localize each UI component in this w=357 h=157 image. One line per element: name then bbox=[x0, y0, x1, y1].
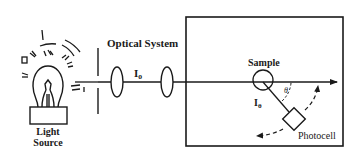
photocell-icon bbox=[283, 108, 306, 131]
sample-circle bbox=[253, 70, 273, 90]
rotation-arrow-up bbox=[305, 86, 318, 110]
incident-intensity-subscript: o bbox=[138, 72, 142, 81]
angle-label: θ bbox=[284, 87, 288, 95]
scattered-intensity-label: Iθ bbox=[254, 98, 262, 110]
light-rays-icon bbox=[22, 30, 84, 92]
optical-system-label: Optical System bbox=[107, 38, 178, 49]
sample-label: Sample bbox=[248, 58, 280, 68]
rotation-arrow-down bbox=[257, 129, 283, 136]
light-source-label-line2: Source bbox=[24, 138, 72, 148]
lens-1 bbox=[111, 67, 123, 97]
photocell-label: Photocell bbox=[298, 131, 336, 141]
light-source-base bbox=[30, 107, 67, 124]
scattered-intensity-subscript: θ bbox=[258, 102, 262, 110]
incident-intensity-label: Io bbox=[134, 68, 142, 81]
light-source-label-line1: Light bbox=[24, 127, 72, 137]
diagram-canvas: Optical System Io Sample Iθ θ Photocell … bbox=[0, 0, 357, 157]
lens-2 bbox=[161, 67, 173, 97]
light-bulb-icon bbox=[33, 66, 63, 107]
light-source-label: Light Source bbox=[24, 127, 72, 148]
